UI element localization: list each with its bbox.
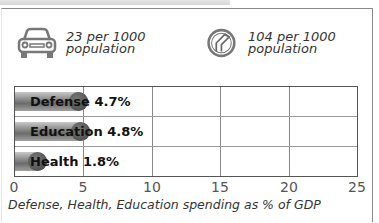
row-divider [15,116,357,117]
x-tick-10: 10 [143,179,161,195]
cars-stat: 23 per 1000 population [16,26,146,60]
bar-label-defense: Defense 4.7% [30,94,130,109]
x-tick-20: 20 [280,179,298,195]
x-tick-15: 15 [211,179,229,195]
x-tick-0: 0 [10,179,19,195]
x-tick-5: 5 [79,179,88,195]
bar-label-health: Health 1.8% [30,154,119,169]
car-icon [16,26,58,60]
bar-label-education: Education 4.8% [30,124,143,139]
cars-unit: population [66,43,146,55]
gridline-20 [289,87,290,176]
gridline-15 [220,87,221,176]
x-axis-caption: Defense, Health, Education spending as %… [8,197,321,212]
road-sign-icon [206,26,242,60]
roads-unit: population [248,43,336,55]
x-tick-25: 25 [348,179,366,195]
bar-chart: Defense 4.7% Education 4.8% Health 1.8% [14,86,358,177]
roads-stat: 104 per 1000 population [206,26,336,60]
title-strip [0,0,230,5]
row-divider [15,146,357,147]
gridline-10 [152,87,153,176]
